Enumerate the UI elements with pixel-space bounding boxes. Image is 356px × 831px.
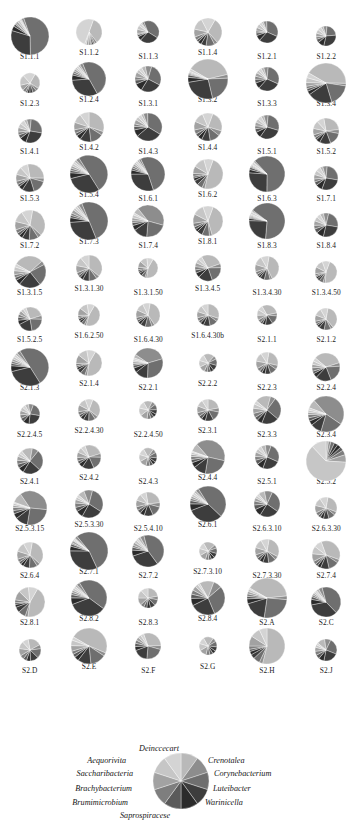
pie-panel: S2.5.1	[237, 439, 296, 486]
pie-slice	[27, 508, 47, 525]
pie-panel: S2.4.4	[178, 439, 237, 486]
legend-reference-pie: Deinccecart Crenotalea Corynebacterium L…	[0, 744, 356, 830]
pie-panel: S2.3.4	[297, 392, 356, 439]
pie-graphic	[7, 208, 53, 242]
pie-graphic	[7, 491, 53, 525]
pie-slice	[29, 414, 40, 424]
pie-graphic	[303, 19, 349, 53]
pie-graphic	[185, 204, 231, 238]
pie-graphic	[125, 110, 171, 144]
pie-graphic	[244, 62, 290, 96]
pie-graphic	[303, 161, 349, 195]
pie-panel: S1.7.2	[0, 203, 59, 250]
pie-panel-label: S2.5.1	[257, 478, 277, 486]
pie-graphic	[66, 62, 112, 96]
legend-label-brumimicrobium: Brumimicrobium	[72, 798, 128, 807]
pie-panel: S2.7.2	[119, 533, 178, 580]
pie-panel: S2.3.3	[237, 392, 296, 439]
pie-graphic	[7, 66, 53, 100]
pie-graphic	[244, 346, 290, 380]
pie-panel: S1.3.1.5	[0, 250, 59, 297]
pie-panel: S1.5.2	[297, 108, 356, 155]
pie-panel-label: S1.3.4.30	[252, 289, 281, 297]
pie-panel: S1.4.3	[119, 108, 178, 155]
pie-graphic	[244, 110, 290, 144]
pie-graphic	[303, 444, 349, 478]
pie-graphic	[185, 110, 231, 144]
pie-graphic	[244, 204, 290, 238]
pie-slice	[27, 164, 43, 178]
pie-graphic	[66, 440, 112, 474]
pie-panel-label: S1.2.3	[20, 100, 40, 108]
pie-panel-label: S1.8.1	[198, 238, 218, 246]
pie-panel: S2.G	[178, 627, 237, 674]
pie-graphic	[125, 629, 171, 663]
pie-graphic	[185, 487, 231, 521]
pie-panel-label: S2.4.2	[79, 474, 99, 482]
pie-graphic	[244, 487, 290, 521]
pie-panel: S2.5.3.30	[59, 486, 118, 533]
pie-panel-label: S2.4.3	[139, 478, 159, 486]
pie-panel-label: S1.3.3	[257, 100, 277, 108]
pie-panel: S2.C	[297, 580, 356, 627]
pie-panel: S2.7.3.30	[237, 533, 296, 580]
pie-graphic	[185, 581, 231, 615]
pie-panel-label: S2.5.4.10	[134, 525, 163, 533]
pie-graphic	[303, 255, 349, 289]
pie-graphic	[66, 110, 112, 144]
pie-panel: S1.2.2	[297, 14, 356, 61]
pie-graphic	[66, 15, 112, 49]
pie-graphic	[125, 487, 171, 521]
pie-panel: S1.3.2	[178, 61, 237, 108]
pie-panel-label: S1.2.1	[257, 53, 277, 61]
pie-panel: S1.3.3	[237, 61, 296, 108]
pie-panel-label: S1.5.2	[317, 148, 337, 156]
pie-panel-label: S2.4.1	[20, 478, 40, 486]
pie-panel: S2.4.3	[119, 439, 178, 486]
pie-panel-label: S1.6.2	[198, 191, 218, 199]
pie-panel: S1.3.4	[297, 61, 356, 108]
pie-panel-label: S1.8.4	[317, 242, 337, 250]
pie-panel: S1.7.1	[297, 156, 356, 203]
pie-graphic	[244, 15, 290, 49]
pie-panel: S1.2.3	[0, 61, 59, 108]
pie-graphic	[7, 538, 53, 572]
pie-graphic	[244, 298, 290, 332]
pie-panel: S2.6.4	[0, 533, 59, 580]
pie-graphic	[66, 534, 112, 568]
pie-graphic	[303, 585, 349, 619]
pie-panel-label: S1.5.3	[20, 195, 40, 203]
legend-label-saccharibacteria: Saccharibacteria	[77, 769, 133, 778]
pie-graphic	[125, 15, 171, 49]
pie-panel-label: S2.7.2	[139, 572, 159, 580]
pie-graphic	[125, 62, 171, 96]
pie-panel: S2.8.1	[0, 580, 59, 627]
pie-panel: S1.1.4	[178, 14, 237, 61]
pie-panel-label: S1.3.4.50	[312, 289, 341, 297]
pie-panel-label: S1.6.2.50	[74, 332, 103, 340]
legend-label-deinccecart: Deinccecart	[139, 744, 179, 753]
pie-panel: S1.6.3	[237, 156, 296, 203]
pie-panel: S1.3.1.30	[59, 250, 118, 297]
pie-panel-label: S1.6.1	[139, 195, 159, 203]
pie-panel: S2.5.2	[297, 439, 356, 486]
pie-panel-label: S1.4.4	[198, 144, 218, 152]
pie-slice	[249, 172, 267, 191]
pie-graphic	[125, 204, 171, 238]
pie-panel: S1.6.4.30b	[178, 297, 237, 344]
pie-panel: S1.1.1	[0, 14, 59, 61]
pie-graphic	[185, 157, 231, 191]
pie-panel: S1.6.2.50	[59, 297, 118, 344]
pie-panel: S2.4.1	[0, 439, 59, 486]
pie-panel: S1.4.4	[178, 108, 237, 155]
pie-panel-label: S1.1.3	[139, 53, 159, 61]
pie-panel: S1.5.1	[237, 108, 296, 155]
pie-panel: S1.4.2	[59, 108, 118, 155]
pie-panel: S2.1.3	[0, 344, 59, 391]
pie-panel: S2.4.2	[59, 439, 118, 486]
pie-panel-label: S1.7.4	[139, 242, 159, 250]
pie-panel-label: S1.3.1.30	[74, 285, 103, 293]
pie-graphic	[125, 298, 171, 332]
pie-graphic	[66, 157, 112, 191]
pie-panel: S2.6.1	[178, 486, 237, 533]
